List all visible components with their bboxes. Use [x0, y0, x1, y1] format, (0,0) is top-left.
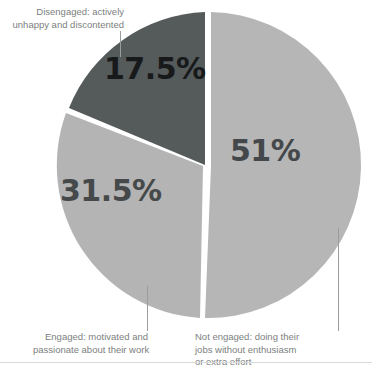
- caption-not-engaged-line-2: jobs without enthusiasm: [195, 344, 340, 357]
- caption-disengaged-line-1: Disengaged: actively: [12, 6, 124, 19]
- leader-line-disengaged: [120, 31, 121, 57]
- slice-value-not-engaged: 51%: [230, 136, 300, 166]
- caption-engaged-line-2: passionate about their work: [33, 344, 148, 357]
- bottom-divider: [0, 362, 372, 363]
- leader-line-not-engaged: [338, 228, 339, 331]
- slice-value-disengaged: 17.5%: [104, 54, 206, 84]
- caption-engaged: Engaged: motivated and passionate about …: [33, 331, 148, 356]
- caption-disengaged-line-2: unhappy and discontented: [12, 19, 124, 32]
- caption-not-engaged-line-1: Not engaged: doing their: [195, 331, 340, 344]
- slice-value-engaged: 31.5%: [60, 176, 162, 206]
- pie-chart: 17.5% 31.5% 51% Disengaged: actively unh…: [0, 0, 372, 371]
- leader-line-engaged: [147, 286, 148, 331]
- caption-engaged-line-1: Engaged: motivated and: [33, 331, 148, 344]
- caption-disengaged: Disengaged: actively unhappy and discont…: [12, 6, 124, 31]
